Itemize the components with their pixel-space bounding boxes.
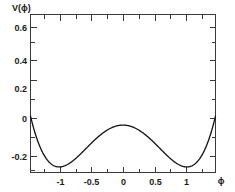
- y-axis-title: V(ϕ): [12, 3, 31, 13]
- double-well-potential-chart: 0.6 0.4 0 -0.2 0.2 -1 -0.5 0 0.5 1 V(ϕ) …: [0, 0, 235, 192]
- x-tick-label-3: 0.5: [149, 177, 162, 187]
- x-axis-title: ϕ: [218, 176, 225, 186]
- y-tick-label-0: 0.6: [14, 23, 27, 33]
- y-tick-label-1: 0.4: [14, 56, 27, 66]
- x-tick-label-1: -0.5: [84, 177, 100, 187]
- x-tick-label-2: 0: [121, 177, 126, 187]
- chart-background: [0, 0, 235, 192]
- y-tick-label-2: 0.2: [14, 84, 27, 94]
- y-tick-label-4: -0.2: [11, 152, 27, 162]
- figure-container: 0.6 0.4 0 -0.2 0.2 -1 -0.5 0 0.5 1 V(ϕ) …: [0, 0, 235, 192]
- x-tick-label-4: 1: [184, 177, 189, 187]
- x-tick-label-0: -1: [56, 177, 64, 187]
- y-tick-label-3: 0: [22, 114, 27, 124]
